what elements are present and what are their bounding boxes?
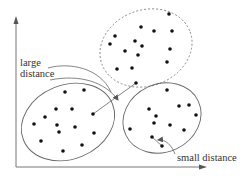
data-point xyxy=(139,25,143,29)
small-distance-line xyxy=(152,137,162,146)
data-point xyxy=(80,143,84,147)
data-point xyxy=(54,107,58,111)
y-axis-arrow-icon xyxy=(14,16,19,24)
data-point xyxy=(182,128,186,132)
data-point xyxy=(140,44,144,48)
left-cluster-points xyxy=(32,88,96,153)
data-point xyxy=(152,121,156,125)
data-point xyxy=(39,139,43,143)
data-point xyxy=(160,144,164,148)
cluster-distance-diagram: large distance small distance xyxy=(0,0,247,176)
data-point xyxy=(128,127,132,131)
data-point xyxy=(115,67,119,71)
data-point xyxy=(168,47,172,51)
data-point xyxy=(70,107,74,111)
top-cluster-boundary xyxy=(89,0,203,100)
data-point xyxy=(134,81,138,85)
data-point xyxy=(136,53,140,57)
data-point xyxy=(73,125,77,129)
data-point xyxy=(154,114,158,118)
data-point xyxy=(32,122,36,126)
distance-connectors xyxy=(48,66,175,154)
data-point xyxy=(43,115,47,119)
data-point xyxy=(130,66,134,70)
data-point xyxy=(165,88,169,92)
data-point xyxy=(55,123,59,127)
data-point xyxy=(177,104,181,108)
x-axis-arrow-icon xyxy=(199,165,207,170)
data-point xyxy=(82,88,86,92)
data-point xyxy=(91,112,95,116)
data-point xyxy=(63,90,67,94)
large-distance-label-line2: distance xyxy=(20,68,55,79)
data-point xyxy=(61,149,65,153)
data-point xyxy=(167,12,171,16)
data-point xyxy=(147,107,151,111)
data-point xyxy=(187,103,191,107)
data-point xyxy=(92,131,96,135)
left-cluster-boundary xyxy=(10,70,127,175)
data-point xyxy=(170,29,174,33)
data-point xyxy=(108,42,112,46)
data-point xyxy=(165,60,169,64)
data-point xyxy=(168,123,172,127)
data-point xyxy=(123,49,127,53)
data-point xyxy=(113,34,117,38)
data-point xyxy=(150,135,154,139)
right-cluster-points xyxy=(128,88,198,148)
data-point xyxy=(152,29,156,33)
axes xyxy=(14,16,208,170)
data-point xyxy=(194,113,198,117)
small-distance-label: small distance xyxy=(177,152,237,163)
top-cluster-points xyxy=(108,12,174,85)
data-point xyxy=(57,130,61,134)
data-point xyxy=(133,39,137,43)
large-distance-label-line1: large xyxy=(20,57,41,68)
cluster-boundaries xyxy=(10,0,213,174)
